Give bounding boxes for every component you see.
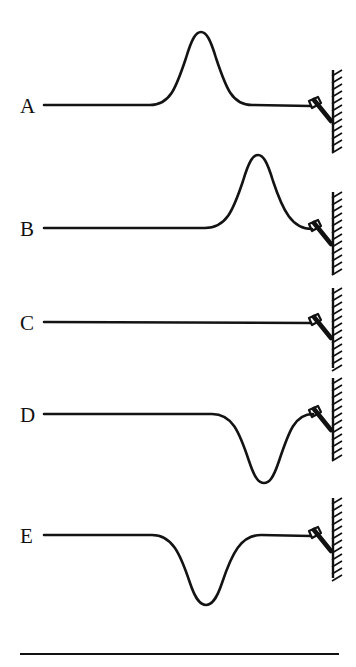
rope-c bbox=[44, 322, 311, 323]
row-label-b: B bbox=[20, 217, 34, 241]
row-label-e: E bbox=[20, 524, 33, 548]
row-label-a: A bbox=[20, 94, 36, 118]
figure-background bbox=[0, 0, 356, 667]
rope-pulse-figure: A B bbox=[0, 0, 356, 667]
row-label-c: C bbox=[20, 311, 34, 335]
row-label-d: D bbox=[20, 403, 35, 427]
